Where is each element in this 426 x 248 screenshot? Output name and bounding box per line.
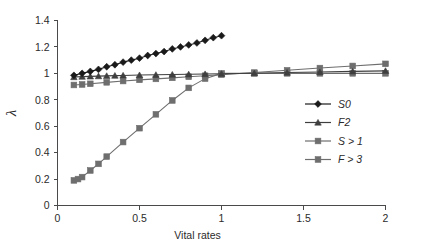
marker-square	[96, 161, 102, 167]
y-tick-label: 0.8	[35, 94, 50, 106]
series-s0	[71, 32, 225, 78]
x-axis-title: Vital rates	[174, 229, 221, 241]
marker-square	[87, 81, 93, 87]
legend-item-s-1: S > 1	[305, 135, 363, 147]
marker-square	[79, 82, 85, 88]
marker-diamond	[79, 70, 86, 77]
legend-label: S0	[338, 98, 351, 110]
legend-label: S > 1	[338, 135, 363, 147]
marker-diamond	[161, 48, 168, 55]
marker-diamond	[87, 68, 94, 75]
marker-diamond	[103, 63, 110, 70]
y-tick-label: 1.4	[35, 14, 50, 26]
y-axis-title: λ	[3, 109, 19, 117]
x-tick-label: 0.5	[132, 212, 147, 224]
axes-group	[58, 21, 386, 206]
marker-square	[104, 79, 110, 85]
legend: S0F2S > 1F > 3	[305, 98, 363, 166]
marker-square	[120, 78, 126, 84]
marker-diamond	[120, 59, 127, 66]
series-s-1	[71, 61, 388, 88]
marker-square	[137, 125, 143, 131]
marker-diamond	[210, 34, 217, 41]
marker-square	[315, 157, 321, 163]
marker-diamond	[95, 66, 102, 73]
y-tick-label: 1.2	[35, 41, 50, 53]
y-tick-label: 0.2	[35, 173, 50, 185]
marker-diamond	[177, 44, 184, 51]
marker-square	[87, 168, 93, 174]
marker-diamond	[194, 40, 201, 47]
marker-diamond	[153, 50, 160, 57]
x-tick-label: 0	[55, 212, 61, 224]
legend-item-s0: S0	[305, 98, 351, 110]
marker-square	[71, 82, 77, 88]
legend-label: F > 3	[338, 153, 362, 165]
x-axis: 00.511.52	[55, 206, 389, 224]
y-axis: 00.20.40.60.811.21.4	[35, 14, 58, 211]
legend-item-f2: F2	[305, 116, 350, 128]
chart-figure: 00.20.40.60.811.21.400.511.52Vital rates…	[0, 0, 426, 248]
marker-diamond	[315, 101, 322, 108]
marker-diamond	[202, 37, 209, 44]
marker-square	[79, 174, 85, 180]
marker-diamond	[185, 42, 192, 49]
x-tick-label: 1	[219, 212, 225, 224]
marker-square	[186, 85, 192, 91]
chart-svg: 00.20.40.60.811.21.400.511.52Vital rates…	[0, 0, 426, 248]
y-tick-label: 1	[44, 67, 50, 79]
y-tick-label: 0	[44, 199, 50, 211]
marker-diamond	[218, 32, 225, 39]
marker-diamond	[136, 55, 143, 62]
marker-diamond	[169, 46, 176, 53]
marker-square	[104, 154, 110, 160]
y-tick-label: 0.6	[35, 120, 50, 132]
marker-square	[383, 61, 389, 67]
x-tick-label: 2	[383, 212, 389, 224]
marker-diamond	[112, 61, 119, 68]
axis-spines	[58, 21, 386, 206]
marker-square	[120, 139, 126, 145]
x-tick-label: 1.5	[296, 212, 311, 224]
marker-square	[169, 98, 175, 104]
y-tick-label: 0.4	[35, 146, 50, 158]
legend-item-f-3: F > 3	[305, 153, 362, 165]
marker-diamond	[144, 52, 151, 59]
marker-square	[315, 138, 321, 144]
legend-label: F2	[338, 116, 350, 128]
marker-diamond	[128, 57, 135, 64]
marker-square	[153, 111, 159, 117]
